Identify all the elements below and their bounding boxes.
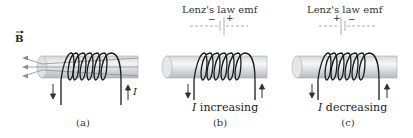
- current-status-label: I increasing: [192, 101, 258, 114]
- panel-b: Lenz's law emf: [140, 0, 275, 138]
- polarity-left: −: [208, 14, 216, 24]
- status-text: decreasing: [326, 101, 387, 114]
- panel-a: B I (a): [0, 0, 140, 138]
- polarity-right: +: [226, 13, 234, 23]
- current-arrow-icons: [310, 84, 390, 98]
- panel-c: Lenz's law emf: [273, 0, 413, 138]
- magnetic-field-label: B: [15, 33, 23, 44]
- emf-battery-symbol: [319, 17, 375, 35]
- emf-battery-symbol: [190, 17, 248, 35]
- status-text: increasing: [200, 101, 258, 114]
- polarity-left: +: [333, 13, 341, 23]
- current-symbol: I: [192, 101, 196, 114]
- current-arrow-icons: [186, 84, 265, 98]
- current-symbol: I: [133, 86, 137, 97]
- current-arrow-icons: [51, 84, 131, 100]
- caption-c: (c): [328, 117, 368, 128]
- current-symbol: I: [318, 101, 322, 114]
- polarity-right: −: [348, 14, 356, 24]
- current-status-label: I decreasing: [318, 101, 387, 114]
- field-arrow-icons: [22, 56, 28, 79]
- current-label: I: [133, 86, 137, 97]
- caption-a: (a): [63, 117, 103, 128]
- caption-b: (b): [200, 117, 240, 128]
